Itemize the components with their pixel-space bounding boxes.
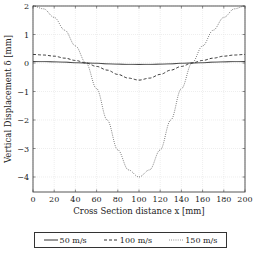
legend-item-150: 150 m/s — [169, 236, 217, 245]
legend: 50 m/s 100 m/s 150 m/s — [34, 232, 227, 248]
y-tick-label: 0 — [24, 59, 29, 68]
x-tick-label: 0 — [30, 195, 35, 204]
grid-lines — [33, 6, 245, 192]
x-tick-label: 80 — [113, 195, 123, 204]
x-axis-ticks: 020406080100120140160180200 — [30, 6, 252, 204]
y-tick-label: −4 — [17, 173, 29, 182]
dotted-line-icon — [169, 237, 183, 243]
x-axis-label: Cross Section distance x [mm] — [73, 206, 204, 216]
legend-label: 100 m/s — [120, 236, 152, 245]
line-chart: 020406080100120140160180200 −4−3−2−1012 … — [0, 0, 257, 232]
x-tick-label: 140 — [174, 195, 189, 204]
y-tick-label: 2 — [24, 2, 29, 11]
y-tick-label: −2 — [17, 116, 29, 125]
y-tick-label: −1 — [17, 88, 29, 97]
legend-label: 150 m/s — [185, 236, 217, 245]
y-axis-label: Vertical Displacement δ [mm] — [3, 35, 13, 164]
legend-item-50: 50 m/s — [44, 236, 87, 245]
legend-label: 50 m/s — [60, 236, 87, 245]
dashed-line-icon — [104, 237, 118, 243]
x-tick-label: 200 — [237, 195, 252, 204]
x-tick-label: 120 — [153, 195, 168, 204]
y-tick-label: 1 — [24, 31, 29, 40]
x-tick-label: 100 — [131, 195, 146, 204]
x-tick-label: 40 — [70, 195, 80, 204]
solid-line-icon — [44, 237, 58, 243]
x-tick-label: 60 — [92, 195, 102, 204]
x-tick-label: 160 — [195, 195, 210, 204]
legend-item-100: 100 m/s — [104, 236, 152, 245]
y-tick-label: −3 — [17, 145, 29, 154]
x-tick-label: 20 — [49, 195, 59, 204]
y-axis-ticks: −4−3−2−1012 — [17, 2, 245, 182]
x-tick-label: 180 — [216, 195, 231, 204]
